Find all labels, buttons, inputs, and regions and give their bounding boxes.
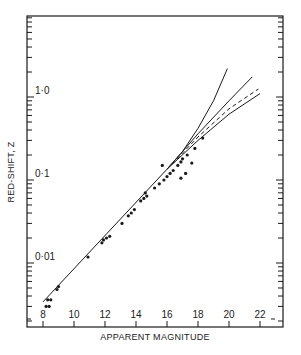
model-curves bbox=[43, 69, 260, 302]
data-point bbox=[46, 298, 49, 301]
data-point bbox=[130, 211, 133, 214]
data-point bbox=[186, 153, 189, 156]
data-point bbox=[181, 157, 184, 160]
data-points bbox=[45, 137, 205, 309]
data-point bbox=[161, 164, 164, 167]
curve-line bbox=[167, 77, 252, 169]
y-axis-tick-labels: 0·010·11·0 bbox=[35, 85, 55, 262]
x-axis-tick-labels: 810121416182022 bbox=[40, 309, 266, 320]
plot-frame bbox=[27, 16, 283, 327]
data-point bbox=[144, 191, 147, 194]
x-tick-label: 12 bbox=[99, 309, 111, 320]
data-point bbox=[127, 214, 130, 217]
data-point bbox=[169, 172, 172, 175]
data-point bbox=[176, 164, 179, 167]
x-axis-title: APPARENT MAGNITUDE bbox=[100, 332, 210, 342]
y-axis-right-ticks bbox=[276, 18, 283, 321]
data-point bbox=[55, 288, 58, 291]
data-point bbox=[165, 175, 168, 178]
x-tick-label: 10 bbox=[68, 309, 80, 320]
data-point bbox=[193, 147, 196, 150]
data-point bbox=[102, 238, 105, 241]
x-tick-label: 8 bbox=[40, 309, 46, 320]
curve-line bbox=[43, 169, 167, 302]
data-point bbox=[133, 208, 136, 211]
data-point bbox=[142, 197, 145, 200]
data-point bbox=[153, 186, 156, 189]
data-point bbox=[179, 177, 182, 180]
curve-line bbox=[167, 94, 260, 170]
data-point bbox=[120, 222, 123, 225]
x-tick-label: 14 bbox=[130, 309, 142, 320]
data-point bbox=[105, 236, 108, 239]
data-point bbox=[172, 169, 175, 172]
x-tick-label: 20 bbox=[223, 309, 235, 320]
data-point bbox=[86, 255, 89, 258]
data-point bbox=[201, 137, 204, 140]
data-point bbox=[139, 199, 142, 202]
data-point bbox=[48, 305, 51, 308]
y-tick-label: 0·1 bbox=[35, 168, 50, 179]
data-point bbox=[49, 298, 52, 301]
y-axis-title: RED-SHIFT, Z bbox=[6, 141, 16, 202]
y-tick-label: 0·01 bbox=[35, 251, 55, 262]
data-point bbox=[184, 172, 187, 175]
x-tick-label: 18 bbox=[192, 309, 204, 320]
chart: 0·010·11·0 810121416182022 APPARENT MAGN… bbox=[0, 0, 301, 355]
data-point bbox=[179, 160, 182, 163]
data-point bbox=[57, 285, 60, 288]
x-axis-ticks bbox=[27, 319, 275, 327]
data-point bbox=[100, 241, 103, 244]
data-point bbox=[45, 305, 48, 308]
x-tick-label: 16 bbox=[161, 309, 173, 320]
y-axis-left-ticks bbox=[27, 18, 34, 321]
y-tick-label: 1·0 bbox=[35, 85, 50, 96]
data-point bbox=[108, 235, 111, 238]
x-tick-label: 22 bbox=[254, 309, 266, 320]
curve-line bbox=[167, 89, 258, 169]
data-point bbox=[190, 162, 193, 165]
data-point bbox=[145, 195, 148, 198]
data-point bbox=[162, 178, 165, 181]
data-point bbox=[158, 182, 161, 185]
